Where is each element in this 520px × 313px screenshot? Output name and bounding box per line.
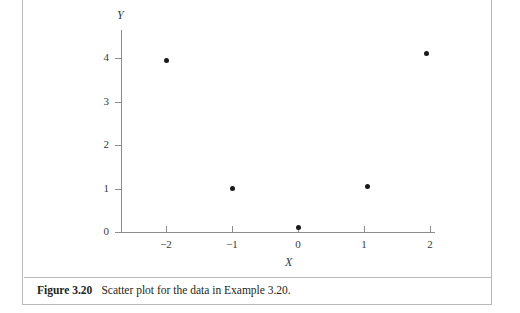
- caption-divider: [24, 277, 492, 278]
- x-axis-line: [121, 232, 435, 233]
- scatter-plot: Y X 01234 −2−1012: [23, 0, 493, 277]
- x-axis-tick: [430, 226, 431, 233]
- caption-figure-number: Figure 3.20: [37, 284, 92, 296]
- data-point: [296, 225, 301, 230]
- y-axis-tick-label: 3: [85, 95, 109, 107]
- y-axis-tick-label: 4: [85, 51, 109, 63]
- y-axis-tick: [115, 232, 122, 233]
- data-point: [424, 51, 429, 56]
- caption-description: Scatter plot for the data in Example 3.2…: [101, 284, 290, 296]
- y-axis-tick: [115, 145, 122, 146]
- y-axis-tick-label: 1: [85, 182, 109, 194]
- y-axis-tick-label: 2: [85, 138, 109, 150]
- x-axis-title: X: [285, 255, 292, 270]
- y-axis-line: [121, 30, 122, 233]
- y-axis-tick: [115, 189, 122, 190]
- y-axis-tick: [115, 102, 122, 103]
- figure-frame: Y X 01234 −2−1012 Figure 3.20Scatter plo…: [22, 0, 492, 305]
- y-axis-tick: [115, 58, 122, 59]
- x-axis-tick: [232, 226, 233, 233]
- y-axis-title: Y: [117, 8, 124, 23]
- data-point: [164, 58, 169, 63]
- x-axis-tick-label: 0: [283, 238, 313, 250]
- x-axis-tick-label: 2: [415, 238, 445, 250]
- x-axis-tick: [364, 226, 365, 233]
- x-axis-tick: [166, 226, 167, 233]
- data-point: [230, 186, 235, 191]
- x-axis-tick-label: 1: [349, 238, 379, 250]
- figure-caption: Figure 3.20Scatter plot for the data in …: [37, 284, 291, 296]
- x-axis-tick-label: −2: [151, 238, 181, 250]
- y-axis-tick-label: 0: [85, 225, 109, 237]
- data-point: [365, 184, 370, 189]
- x-axis-tick-label: −1: [217, 238, 247, 250]
